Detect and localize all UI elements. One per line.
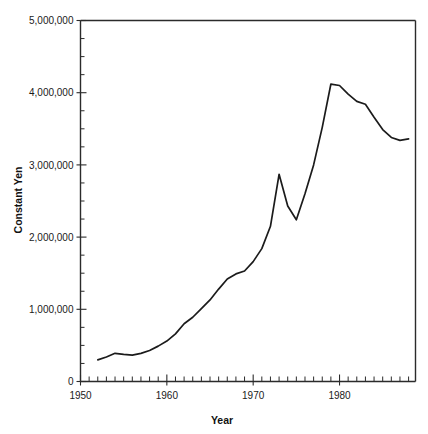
x-axis-ticks: [81, 375, 409, 386]
plot-frame: [81, 21, 416, 382]
y-tick-label: 1,000,000: [29, 304, 74, 315]
y-tick-label: 4,000,000: [29, 87, 74, 98]
x-tick-label: 1960: [156, 390, 179, 401]
x-tick-label: 1980: [328, 390, 351, 401]
line-chart: 01,000,0002,000,0003,000,0004,000,0005,0…: [0, 0, 428, 434]
x-tick-label: 1950: [69, 390, 92, 401]
y-tick-label: 3,000,000: [29, 160, 74, 171]
y-axis-ticks: [77, 21, 87, 382]
y-axis-tick-labels: 01,000,0002,000,0003,000,0004,000,0005,0…: [29, 15, 74, 387]
x-axis-title: Year: [211, 414, 233, 426]
y-tick-label: 0: [68, 376, 74, 387]
y-axis-title: Constant Yen: [12, 167, 24, 234]
x-tick-label: 1970: [242, 390, 265, 401]
x-axis-tick-labels: 1950196019701980: [69, 390, 351, 401]
y-tick-label: 5,000,000: [29, 15, 74, 26]
chart-page: 01,000,0002,000,0003,000,0004,000,0005,0…: [0, 0, 428, 434]
y-tick-label: 2,000,000: [29, 232, 74, 243]
data-series-group: [98, 84, 409, 360]
data-line-constant-yen: [98, 84, 409, 360]
